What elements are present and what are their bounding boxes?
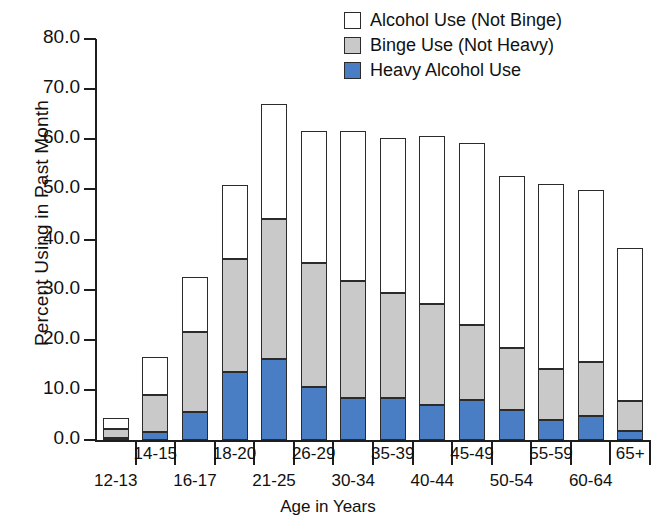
bar-segment-binge-use	[340, 281, 366, 399]
legend-swatch-gray	[344, 37, 361, 54]
bar-segment-binge-use	[182, 332, 208, 412]
bar-group	[459, 39, 485, 440]
x-axis-tick-label: 21-25	[238, 471, 310, 491]
y-axis-tick-label: 10.0	[8, 377, 80, 399]
bar-segment-heavy-alcohol-use	[103, 438, 129, 441]
legend-swatch-white	[344, 12, 361, 29]
legend-item: Binge Use (Not Heavy)	[344, 33, 562, 57]
y-axis-tick	[84, 88, 96, 90]
bar-group	[222, 39, 248, 440]
bar-segment-alcohol-use	[182, 277, 208, 333]
bar-segment-heavy-alcohol-use	[261, 359, 287, 440]
bar-segment-binge-use	[578, 362, 604, 416]
y-axis-tick-label: 80.0	[8, 26, 80, 48]
bar-segment-alcohol-use	[261, 104, 287, 220]
bar-group	[617, 39, 643, 440]
bar-segment-alcohol-use	[301, 131, 327, 262]
bar-segment-alcohol-use	[380, 138, 406, 293]
chart-legend: Alcohol Use (Not Binge)Binge Use (Not He…	[344, 8, 562, 83]
x-axis-tick-label: 16-17	[159, 471, 231, 491]
bar-segment-heavy-alcohol-use	[222, 372, 248, 440]
bar-group	[538, 39, 564, 440]
y-axis-tick-label: 70.0	[8, 76, 80, 98]
x-axis-tick-label: 18-20	[199, 444, 271, 464]
stacked-bar-chart: Percent Using in Past Month 0.010.020.03…	[0, 0, 656, 518]
bar-group	[301, 39, 327, 440]
bar-group	[499, 39, 525, 440]
x-axis-tick-label: 30-34	[317, 471, 389, 491]
bar-segment-heavy-alcohol-use	[182, 412, 208, 440]
bar-segment-heavy-alcohol-use	[380, 398, 406, 440]
x-axis-tick-label: 50-54	[476, 471, 548, 491]
bar-segment-alcohol-use	[617, 248, 643, 401]
bar-group	[578, 39, 604, 440]
legend-label: Heavy Alcohol Use	[370, 60, 521, 81]
bar-segment-heavy-alcohol-use	[538, 420, 564, 440]
bar-group	[261, 39, 287, 440]
bar-group	[142, 39, 168, 440]
bar-segment-binge-use	[499, 348, 525, 410]
legend-label: Alcohol Use (Not Binge)	[370, 10, 562, 31]
legend-swatch-blue	[344, 62, 361, 79]
x-axis-tick-label: 65+	[594, 444, 656, 464]
y-axis-tick	[84, 138, 96, 140]
bar-segment-binge-use	[380, 293, 406, 398]
bar-segment-alcohol-use	[419, 136, 445, 303]
x-axis-tick-label: 26-29	[278, 444, 350, 464]
bar-segment-binge-use	[261, 219, 287, 358]
bar-segment-alcohol-use	[103, 418, 129, 429]
x-axis-title: Age in Years	[0, 497, 656, 517]
bar-segment-alcohol-use	[142, 357, 168, 395]
bar-segment-binge-use	[459, 325, 485, 401]
x-axis-tick-label: 12-13	[80, 471, 152, 491]
bar-segment-binge-use	[103, 429, 129, 438]
bar-segment-binge-use	[301, 263, 327, 388]
legend-item: Alcohol Use (Not Binge)	[344, 8, 562, 32]
x-axis-tick-label: 40-44	[396, 471, 468, 491]
y-axis-tick	[84, 339, 96, 341]
y-axis-tick	[84, 38, 96, 40]
bar-segment-binge-use	[142, 395, 168, 432]
bar-segment-heavy-alcohol-use	[617, 431, 643, 440]
bar-group	[340, 39, 366, 440]
y-axis-tick	[84, 239, 96, 241]
legend-label: Binge Use (Not Heavy)	[370, 35, 554, 56]
y-axis-tick-label: 60.0	[8, 126, 80, 148]
bar-segment-heavy-alcohol-use	[340, 398, 366, 440]
y-axis-tick	[84, 188, 96, 190]
bar-group	[103, 39, 129, 440]
y-axis-tick-label: 50.0	[8, 176, 80, 198]
bar-segment-heavy-alcohol-use	[419, 405, 445, 440]
plot-area	[96, 39, 648, 440]
bar-group	[380, 39, 406, 440]
bar-segment-heavy-alcohol-use	[142, 432, 168, 440]
x-axis-tick-label: 14-15	[119, 444, 191, 464]
x-axis-tick-label: 55-59	[515, 444, 587, 464]
bar-segment-alcohol-use	[459, 143, 485, 324]
bar-group	[419, 39, 445, 440]
x-axis-tick-label: 35-39	[357, 444, 429, 464]
bar-segment-alcohol-use	[222, 185, 248, 259]
y-axis-tick-label: 30.0	[8, 277, 80, 299]
bar-segment-alcohol-use	[538, 184, 564, 369]
bar-segment-binge-use	[419, 304, 445, 406]
x-axis-tick-label: 45-49	[436, 444, 508, 464]
bar-segment-heavy-alcohol-use	[578, 416, 604, 440]
bar-group	[182, 39, 208, 440]
y-axis-tick	[84, 439, 96, 441]
bar-segment-heavy-alcohol-use	[499, 410, 525, 440]
bar-segment-binge-use	[222, 259, 248, 372]
legend-item: Heavy Alcohol Use	[344, 58, 562, 82]
bar-segment-binge-use	[617, 401, 643, 431]
bar-segment-alcohol-use	[499, 176, 525, 348]
bar-segment-alcohol-use	[340, 131, 366, 281]
bar-segment-binge-use	[538, 369, 564, 420]
y-axis-tick-label: 0.0	[8, 427, 80, 449]
x-axis-tick-label: 60-64	[555, 471, 627, 491]
y-axis-tick	[84, 389, 96, 391]
bar-segment-heavy-alcohol-use	[301, 387, 327, 440]
bar-segment-heavy-alcohol-use	[459, 400, 485, 440]
y-axis-tick-label: 20.0	[8, 327, 80, 349]
bar-segment-alcohol-use	[578, 190, 604, 362]
y-axis-tick-label: 40.0	[8, 227, 80, 249]
